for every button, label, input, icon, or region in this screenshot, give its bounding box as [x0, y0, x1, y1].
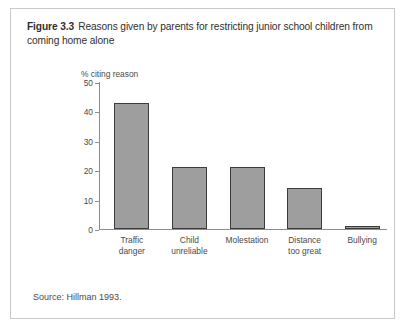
bar-bullying	[345, 226, 380, 229]
y-tick-label-40: 40	[67, 107, 93, 117]
plot-area: 01020304050	[99, 82, 387, 230]
figure-caption-text: Reasons given by parents for restricting…	[27, 21, 373, 46]
y-tick-40	[95, 112, 99, 113]
y-axis-line	[99, 82, 100, 230]
bar-child-unreliable	[172, 167, 207, 229]
bar-molestation	[230, 167, 265, 229]
x-label-bullying: Bullying	[327, 235, 397, 246]
y-tick-10	[95, 201, 99, 202]
y-tick-label-20: 20	[67, 166, 93, 176]
figure-caption: Figure 3.3Reasons given by parents for r…	[27, 20, 379, 48]
source-note: Source: Hillman 1993.	[33, 292, 122, 302]
y-tick-0	[95, 230, 99, 231]
y-tick-30	[95, 142, 99, 143]
y-tick-50	[95, 83, 99, 84]
y-tick-label-30: 30	[67, 137, 93, 147]
y-tick-label-0: 0	[67, 225, 93, 235]
figure-frame: Figure 3.3Reasons given by parents for r…	[10, 8, 395, 319]
y-tick-label-50: 50	[67, 78, 93, 88]
bar-chart: % citing reason 01020304050 Traffic dang…	[71, 69, 371, 259]
y-tick-20	[95, 171, 99, 172]
figure-number: Figure 3.3	[27, 21, 74, 32]
y-tick-label-10: 10	[67, 196, 93, 206]
bar-distance-too-great	[287, 188, 322, 229]
bar-traffic-danger	[114, 103, 149, 229]
x-axis-line	[99, 229, 387, 230]
